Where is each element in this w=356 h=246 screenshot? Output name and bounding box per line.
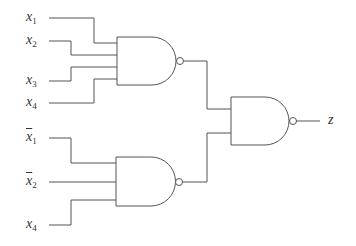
label-x3: x3 [26,73,37,91]
nand-bubble-1 [177,58,184,65]
label-x4: x4 [26,95,37,113]
nand-bubble-2 [176,179,183,186]
wire-x1-bar [49,138,116,163]
label-output-z: z [328,113,333,127]
label-x1-bar: x1 [26,130,37,148]
label-x2-bar: x2 [26,174,37,192]
label-x1: x1 [26,10,37,28]
wire-gate1-out [184,61,232,109]
wire-x4 [49,79,117,103]
circuit-wires-and-gates [0,0,356,246]
wire-x4-bottom [49,200,116,225]
nand-gate-1 [117,37,176,85]
logic-circuit-diagram: x1 x2 x3 x4 x1 x2 x4 z [0,0,356,246]
nand-gate-2 [116,157,176,206]
wire-x1 [49,18,117,43]
wire-gate2-out [183,133,232,182]
nand-gate-3 [231,97,289,145]
label-x2: x2 [26,33,37,51]
label-x4-bottom: x4 [26,217,37,235]
nand-bubble-3 [290,118,297,125]
